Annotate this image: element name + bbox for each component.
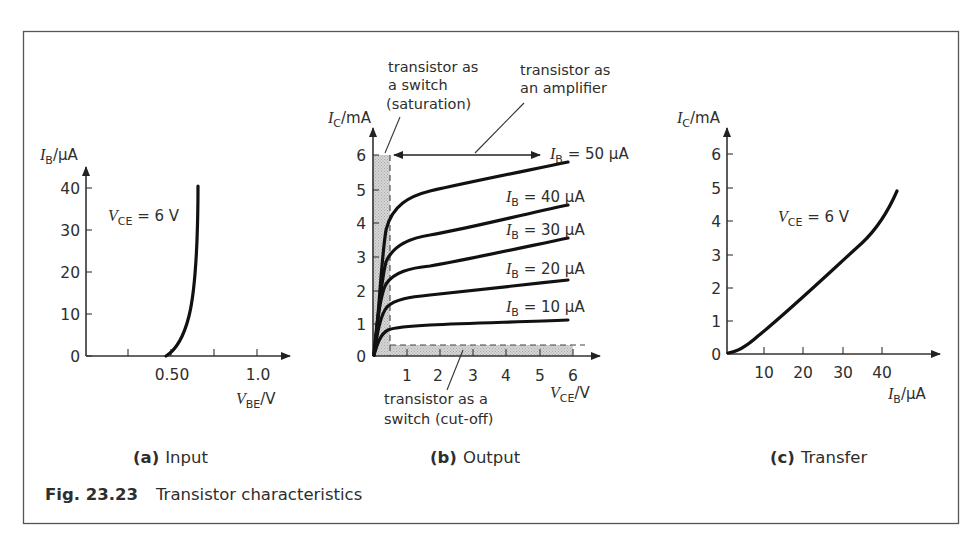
output-label-ib-30: IB = 30 µA (505, 221, 585, 242)
input-x-axis-label: VBE/V (236, 390, 276, 411)
input-y-axis-label: IB/µA (39, 146, 78, 167)
svg-text:a switch: a switch (388, 77, 448, 93)
output-xtick-3: 3 (468, 367, 478, 385)
output-ytick-5: 5 (356, 182, 366, 200)
transfer-y-axis-label: IC/mA (676, 109, 721, 130)
transfer-ytick-2: 2 (711, 280, 721, 298)
svg-text:transistor as a: transistor as a (384, 391, 488, 407)
caption-output: (b)Output (430, 448, 521, 467)
svg-text:switch (cut-off): switch (cut-off) (384, 411, 493, 427)
output-label-ib-20: IB = 20 µA (505, 260, 585, 281)
caption-transfer: (c)Transfer (770, 448, 867, 467)
output-ytick-1: 1 (356, 316, 366, 334)
output-label-ib-50: IB = 50 µA (549, 145, 629, 166)
output-xtick-5: 5 (535, 367, 545, 385)
input-curve-label: VCE = 6 V (108, 207, 180, 228)
input-ytick-0: 0 (70, 348, 80, 366)
saturation-annotation: transistor as a switch (saturation) (385, 59, 478, 153)
input-ytick-40: 40 (60, 180, 80, 198)
output-y-axis-label: IC/mA (327, 109, 372, 130)
cutoff-region (390, 345, 573, 356)
transfer-ytick-5: 5 (711, 180, 721, 198)
output-ytick-4: 4 (356, 215, 366, 233)
panel-input-chart: 0 10 20 30 40 0.50 1.0 IB/µA VBE/V VCE =… (39, 146, 290, 411)
input-ytick-30: 30 (60, 222, 80, 240)
panel-transfer-chart: 0 1 2 3 4 5 6 10 20 30 40 IC/mA IB/µA VC… (676, 109, 940, 406)
output-ytick-0: 0 (356, 348, 366, 366)
transfer-xtick-40: 40 (872, 364, 892, 382)
output-label-ib-10: IB = 10 µA (505, 298, 585, 319)
input-xtick-0.50: 0.50 (155, 366, 190, 384)
input-xtick-1.0: 1.0 (246, 366, 271, 384)
transfer-curve-label: VCE = 6 V (778, 208, 850, 229)
transfer-xtick-30: 30 (833, 364, 853, 382)
transfer-x-ticks: 10 20 30 40 (754, 347, 892, 382)
transfer-xtick-10: 10 (754, 364, 774, 382)
output-xtick-1: 1 (402, 367, 412, 385)
transfer-y-ticks: 0 1 2 3 4 5 6 (711, 146, 733, 364)
input-ytick-20: 20 (60, 264, 80, 282)
output-xtick-6: 6 (568, 367, 578, 385)
transfer-ytick-0: 0 (711, 346, 721, 364)
output-xtick-2: 2 (433, 367, 443, 385)
svg-text:transistor as: transistor as (520, 62, 610, 78)
cutoff-annotation: transistor as a switch (cut-off) (384, 350, 493, 427)
output-curve-ib-30 (374, 238, 568, 355)
transfer-xtick-20: 20 (793, 364, 813, 382)
transfer-ytick-6: 6 (711, 146, 721, 164)
transfer-x-axis-label: IB/µA (887, 385, 926, 406)
output-xtick-4: 4 (501, 367, 511, 385)
output-x-axis-label: VCE/V (550, 384, 590, 405)
input-y-ticks: 0 10 20 30 40 (60, 180, 92, 366)
output-ytick-6: 6 (356, 147, 366, 165)
svg-text:(saturation): (saturation) (386, 96, 471, 112)
output-ytick-2: 2 (356, 283, 366, 301)
transistor-characteristics-figure: 0 10 20 30 40 0.50 1.0 IB/µA VBE/V VCE =… (0, 0, 978, 544)
input-ytick-10: 10 (60, 306, 80, 324)
panel-output-chart: 0 1 2 3 4 5 6 1 2 3 4 5 6 IC/mA VCE/V (327, 59, 629, 427)
svg-text:transistor as: transistor as (388, 59, 478, 75)
transfer-ytick-4: 4 (711, 213, 721, 231)
caption-input: (a)Input (133, 448, 208, 467)
input-x-ticks: 0.50 1.0 (128, 349, 270, 384)
transfer-ytick-1: 1 (711, 313, 721, 331)
figure-caption: Fig. 23.23Transistor characteristics (45, 485, 362, 504)
transfer-ytick-3: 3 (711, 247, 721, 265)
output-ytick-3: 3 (356, 249, 366, 267)
svg-text:an amplifier: an amplifier (520, 80, 607, 96)
output-curve-ib-20 (374, 280, 568, 355)
output-label-ib-40: IB = 40 µA (505, 188, 585, 209)
